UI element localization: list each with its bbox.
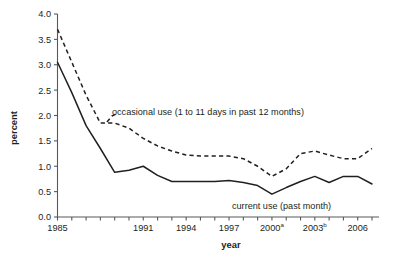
x-tick-label: 1994 bbox=[176, 223, 196, 233]
y-tick-label: 2.5 bbox=[38, 86, 51, 96]
y-tick-label: 1.5 bbox=[38, 136, 51, 146]
chart-figure: 0.00.51.01.52.02.53.03.54.0 198519911994… bbox=[0, 0, 393, 261]
x-tick-label: 2000a bbox=[260, 221, 284, 233]
y-axis-title: percent bbox=[8, 111, 19, 145]
y-tick-label: 0.0 bbox=[38, 212, 51, 222]
series-line-current-use bbox=[58, 62, 373, 194]
x-tick-label: 1985 bbox=[47, 223, 67, 233]
y-tick-label: 2.0 bbox=[38, 111, 51, 121]
x-tick-group: 19851991199419972000a2003b2006 bbox=[47, 217, 372, 233]
x-tick-label-superscript: b bbox=[323, 221, 327, 228]
y-tick-label: 1.0 bbox=[38, 162, 51, 172]
current-use-label: current use (past month) bbox=[232, 201, 331, 211]
x-tick-label: 1991 bbox=[133, 223, 153, 233]
x-tick-label: 2006 bbox=[347, 223, 367, 233]
x-tick-label: 2003b bbox=[303, 221, 327, 233]
y-tick-label: 4.0 bbox=[38, 9, 51, 19]
line-chart: 0.00.51.01.52.02.53.03.54.0 198519911994… bbox=[0, 0, 393, 261]
y-tick-label: 0.5 bbox=[38, 187, 51, 197]
x-tick-label-superscript: a bbox=[280, 221, 284, 228]
x-tick-label: 1997 bbox=[219, 223, 239, 233]
y-tick-label: 3.5 bbox=[38, 35, 51, 45]
occasional-use-label: occasional use (1 to 11 days in past 12 … bbox=[112, 107, 304, 117]
y-tick-group: 0.00.51.01.52.02.53.03.54.0 bbox=[38, 9, 57, 222]
x-axis-title: year bbox=[221, 239, 241, 250]
y-tick-label: 3.0 bbox=[38, 60, 51, 70]
